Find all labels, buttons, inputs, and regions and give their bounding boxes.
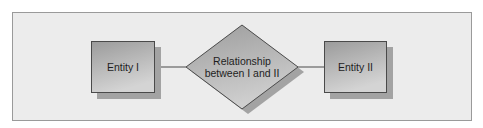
relationship-label-line1: Relationship bbox=[192, 55, 292, 67]
entity-1-label: Entity I bbox=[91, 61, 155, 73]
relationship-label-line2: between I and II bbox=[192, 67, 292, 79]
entity-2-label: Entity II bbox=[324, 61, 387, 73]
